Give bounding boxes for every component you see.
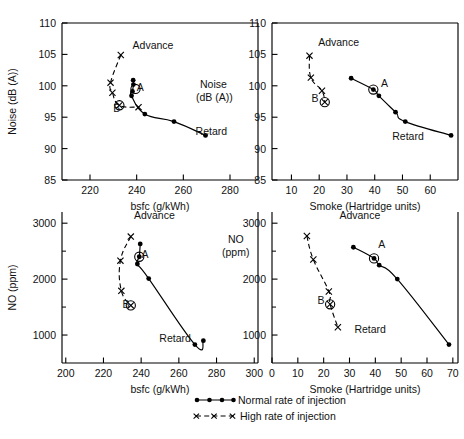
series-normal-rate [349, 76, 454, 138]
emissions-tradeoff-figure: 859095100105110220240260280bsfc (g/kWh)N… [0, 0, 464, 439]
x-tick-label: 40 [369, 367, 381, 379]
data-point-cross [319, 88, 325, 94]
legend-entry-normal: Normal rate of injection [195, 394, 346, 406]
x-tick-label: 240 [128, 184, 146, 196]
panel-noise-vs-bsfc: 859095100105110220240260280bsfc (g/kWh)N… [6, 17, 258, 212]
y-tick-label: 95 [44, 111, 56, 123]
data-point-circle [135, 262, 140, 267]
x-tick-label: 260 [175, 184, 193, 196]
series-high-rate [304, 233, 341, 330]
curve-high-rate [307, 236, 338, 327]
panel-noise-vs-smoke: 859095100105110102030405060Smoke (Hartri… [248, 17, 458, 212]
y-tick-label: 3000 [33, 217, 57, 229]
annotation-advance: Advance [339, 209, 380, 221]
legend-dot-1 [195, 398, 200, 403]
legend-dot-4 [231, 398, 236, 403]
x-tick-label: 60 [421, 367, 433, 379]
data-point-circle [376, 93, 381, 98]
x-ticks: 220240260280 [81, 175, 239, 197]
annotation-retard: Retard [392, 130, 424, 142]
panel-frame [272, 212, 458, 363]
x-tick-label: 70 [447, 367, 459, 379]
x-tick-label: 10 [286, 184, 298, 196]
data-point-circle [192, 342, 197, 347]
panel-frame [272, 23, 458, 180]
y-tick-label: 85 [44, 174, 56, 186]
data-point-circle [395, 277, 400, 282]
figure-legend: Normal rate of injection High rate of in… [194, 394, 347, 422]
data-point-circle [349, 76, 354, 81]
point-label-b: B [113, 102, 120, 114]
y-tick-label: 95 [254, 111, 266, 123]
y-ticks: 859095100105110 [248, 17, 277, 186]
x-tick-label: 40 [369, 184, 381, 196]
figure-root: 859095100105110220240260280bsfc (g/kWh)N… [0, 0, 464, 439]
point-label-a: A [378, 238, 385, 250]
annotation-retard: Retard [354, 323, 386, 335]
x-ticks: 102030405060 [286, 175, 437, 197]
annotation-advance: Advance [318, 36, 359, 48]
data-point-circle [449, 133, 454, 138]
panel-annotations: AdvanceRetardAB [312, 36, 424, 142]
data-point-cross [308, 75, 314, 81]
x-tick-label: 30 [344, 367, 356, 379]
x-tick-label: 200 [57, 367, 75, 379]
data-point-cross [310, 256, 316, 262]
y-tick-label: 1000 [33, 329, 57, 341]
annotation-advance: Advance [134, 209, 175, 221]
x-tick-label: 220 [81, 184, 99, 196]
inner-y-label-line1: Noise [200, 78, 227, 90]
y-tick-label: 105 [38, 48, 56, 60]
data-point-circle [129, 93, 134, 98]
y-tick-label: 1000 [243, 329, 267, 341]
x-tick-label: 240 [132, 367, 150, 379]
y-tick-label: 2000 [243, 273, 267, 285]
inner-y-label-line1: NO [228, 233, 244, 245]
point-label-b: B [123, 298, 130, 310]
point-label-b: B [318, 294, 325, 306]
y-axis-title: NO (ppm) [6, 264, 18, 310]
x-tick-label: 300 [245, 367, 263, 379]
y-tick-label: 2000 [33, 273, 57, 285]
legend-label-normal: Normal rate of injection [238, 394, 346, 406]
data-point-cross [335, 324, 341, 330]
point-label-a: A [137, 81, 144, 93]
point-label-a: A [381, 77, 388, 89]
data-point-circle [138, 241, 143, 246]
panel-annotations: AdvanceRetardAB [123, 209, 191, 344]
data-point-circle [377, 263, 382, 268]
data-point-circle [351, 245, 356, 250]
data-point-circle [201, 338, 206, 343]
x-tick-label: 20 [318, 367, 330, 379]
y-tick-label: 3000 [243, 217, 267, 229]
data-point-circle [146, 276, 151, 281]
data-point-circle [372, 256, 377, 261]
data-point-cross [118, 52, 124, 58]
data-point-circle [172, 119, 177, 124]
inner-y-label-line2: (dB (A)) [196, 91, 233, 103]
y-ticks: 859095100105110 [38, 17, 67, 186]
annotation-retard: Retard [159, 332, 191, 344]
y-tick-label: 110 [39, 17, 56, 29]
x-tick-label: 220 [95, 367, 113, 379]
x-tick-label: 30 [341, 184, 353, 196]
x-tick-label: 0 [269, 367, 275, 379]
y-tick-label: 100 [248, 80, 266, 92]
y-tick-label: 110 [249, 17, 266, 29]
point-label-a: A [141, 248, 148, 260]
curve-normal-rate [351, 78, 451, 135]
x-tick-label: 260 [170, 367, 188, 379]
y-tick-label: 100 [38, 80, 56, 92]
data-point-cross [118, 288, 124, 294]
data-point-cross [327, 301, 333, 307]
running-head [0, 0, 464, 14]
data-point-cross [109, 90, 115, 96]
data-point-circle [393, 110, 398, 115]
inner-y-label-line2: (ppm) [222, 246, 249, 258]
x-axis-title: bsfc (g/kWh) [131, 383, 190, 395]
y-tick-label: 105 [248, 48, 266, 60]
x-tick-label: 50 [395, 367, 407, 379]
curve-high-rate [119, 237, 131, 306]
y-tick-label: 90 [254, 143, 266, 155]
x-ticks: 200220240260280300 [57, 358, 263, 380]
